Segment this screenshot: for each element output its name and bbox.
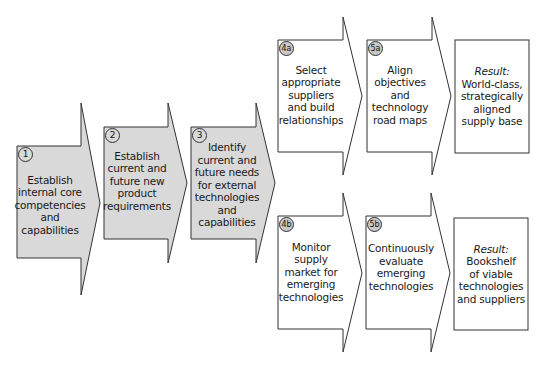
step-5b-text: Continuously evaluate emerging technolog… bbox=[366, 232, 436, 302]
step-1-text: Establish internal core competencies and… bbox=[17, 160, 83, 250]
step-badge-4b: 4b bbox=[279, 217, 294, 232]
step-4a-text: Select appropriate suppliers and build r… bbox=[278, 55, 344, 135]
step-badge-5a: 5a bbox=[368, 41, 383, 56]
result-a-label: Result: bbox=[461, 65, 523, 78]
result-b-text: Result:Bookshelf of viable technologies … bbox=[454, 218, 528, 330]
step-5a-text: Align objectives and technology road map… bbox=[367, 55, 433, 135]
step-3-text: Identify current and future needs for ex… bbox=[191, 140, 263, 230]
step-2-text: Establish current and future new product… bbox=[104, 140, 170, 222]
step-4b-text: Monitor supply market for emerging techn… bbox=[278, 232, 344, 312]
result-a-text: Result:World-class, strategically aligne… bbox=[455, 40, 529, 153]
step-badge-4a: 4a bbox=[279, 41, 294, 56]
step-badge-5b: 5b bbox=[367, 217, 382, 232]
result-b-label: Result: bbox=[457, 243, 525, 256]
